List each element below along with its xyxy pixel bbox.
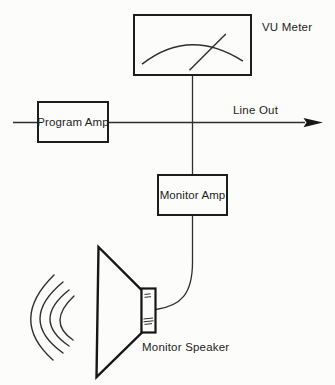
sound-wave-arc-inner	[60, 296, 74, 340]
monitor-amp-cable	[156, 216, 193, 310]
line-out-label: Line Out	[233, 104, 278, 116]
vu-meter-scale-arc	[142, 45, 243, 64]
vu-meter-face	[135, 16, 250, 74]
program-amp-label: Program Amp	[37, 116, 108, 128]
program-amp-box: Program Amp	[37, 101, 109, 143]
speaker-driver	[142, 289, 156, 333]
monitor-amp-box: Monitor Amp	[157, 174, 228, 216]
audio-monitor-diagram: Program Amp Monitor Amp VU Meter Line Ou…	[0, 0, 335, 385]
monitor-amp-label: Monitor Amp	[160, 189, 226, 201]
sound-waves	[31, 275, 74, 360]
vu-meter-box	[133, 14, 252, 76]
line-out-arrowhead	[304, 118, 324, 127]
speaker-horn	[97, 247, 143, 377]
vu-meter-label: VU Meter	[262, 21, 312, 33]
vu-meter-needle	[189, 34, 225, 70]
monitor-speaker-label: Monitor Speaker	[142, 341, 229, 353]
